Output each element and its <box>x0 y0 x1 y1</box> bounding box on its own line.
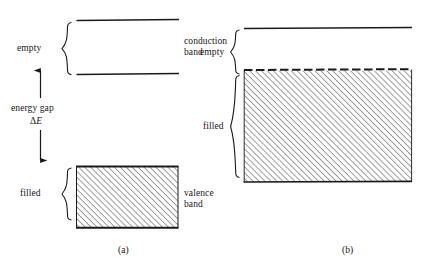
panel-a-conduction-band-top-line <box>77 20 180 21</box>
panel-b-band-top-line <box>244 28 412 29</box>
panel-a-empty-brace <box>62 23 72 75</box>
panel-a-filled-label: filled <box>20 188 41 199</box>
panel-b-empty-brace <box>231 30 240 74</box>
panel-a-valence-band-label-line2: band <box>184 199 203 210</box>
panel-b-band-bottom-line <box>244 181 413 182</box>
panel-a-empty-label: empty <box>17 43 41 54</box>
panel-b-filled-band-fill <box>244 71 412 183</box>
panel-a-conduction-band-label-line1: conduction <box>184 36 227 47</box>
band-diagram-figure: empty conduction band energy gap ΔE fill… <box>0 0 424 269</box>
panel-a-valence-band-fill <box>77 167 179 228</box>
energy-glyph: E <box>36 116 42 126</box>
panel-b-caption: (b) <box>342 245 353 255</box>
panel-b-fermi-level-dashed-line <box>244 69 412 70</box>
panel-a-valence-band-label-line1: valence <box>184 188 214 199</box>
panel-a-energy-gap-delta-symbol: ΔE <box>30 116 42 127</box>
panel-a-conduction-band-bottom-line <box>77 74 180 75</box>
panel-a-filled-brace <box>62 168 72 220</box>
panel-a-energy-gap-label: energy gap <box>11 103 54 114</box>
panel-b-filled-brace <box>231 76 240 178</box>
panel-a-caption: (a) <box>118 245 129 255</box>
panel-b-empty-label: empty <box>200 47 224 58</box>
panel-b-filled-label: filled <box>203 121 224 132</box>
